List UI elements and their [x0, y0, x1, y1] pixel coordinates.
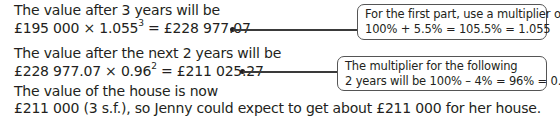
step1-exponent: 3	[138, 18, 144, 28]
conclusion-line2: £211 000 (3 s.f.), so Jenny could expect…	[14, 100, 541, 117]
note2-line2: 2 years will be 100% – 4% = 96% = 0.96	[345, 74, 540, 89]
step2-calculation: £228 977.07 × 0.962 = £211 025.27	[14, 63, 264, 80]
step1-expression: £195 000 × 1.055	[14, 20, 138, 36]
step2-exponent: 2	[151, 61, 157, 71]
note2-line1: The multiplier for the following	[345, 59, 540, 74]
step1-connector-line	[233, 29, 357, 31]
note1-line2: 100% + 5.5% = 105.5% = 1.055	[365, 22, 540, 37]
step2-connector-line	[243, 71, 337, 73]
note-multiplier-increase: For the first part, use a multiplier of …	[357, 4, 547, 40]
conclusion-line1: The value of the house is now	[14, 83, 218, 100]
step1-heading: The value after 3 years will be	[14, 2, 220, 19]
note1-line1: For the first part, use a multiplier of	[365, 7, 540, 22]
step2-expression: £228 977.07 × 0.96	[14, 63, 151, 79]
step1-calculation: £195 000 × 1.0553 = £228 977.07	[14, 20, 251, 37]
step2-heading: The value after the next 2 years will be	[14, 45, 281, 62]
note-multiplier-decrease: The multiplier for the following 2 years…	[337, 56, 547, 91]
